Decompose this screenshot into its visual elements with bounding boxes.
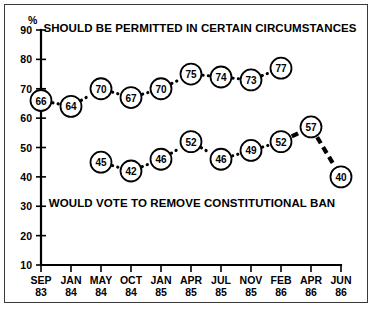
x-tick-label-month: JUL xyxy=(211,274,231,286)
data-point-value: 64 xyxy=(65,101,77,112)
x-tick-label-month: SEP xyxy=(30,274,51,286)
series-connector xyxy=(203,75,209,76)
series-connector xyxy=(143,92,150,94)
x-tick-label-month: JAN xyxy=(60,274,81,286)
y-tick-label: 20 xyxy=(20,230,32,242)
series-data-points: 666470677075747377454246524649525740 xyxy=(31,58,352,188)
x-tick-label-month: NOV xyxy=(240,274,263,286)
series-connector xyxy=(201,148,210,153)
x-tick-label-year: 85 xyxy=(245,286,257,298)
data-point-value: 46 xyxy=(155,154,167,165)
x-tick-label-year: 85 xyxy=(215,286,227,298)
series-connector xyxy=(53,103,59,104)
y-tick-label: 70 xyxy=(20,83,32,95)
x-tick-label-year: 84 xyxy=(95,286,107,298)
data-point-value: 75 xyxy=(185,69,197,80)
data-point-value: 67 xyxy=(125,93,137,104)
y-tick-label: 60 xyxy=(20,112,32,124)
data-point-value: 73 xyxy=(245,75,257,86)
y-axis-unit-label: % xyxy=(28,14,38,26)
series-connector xyxy=(172,79,180,83)
y-axis-ticks: 908070605040302010 xyxy=(20,24,46,271)
data-point-value: 46 xyxy=(215,154,227,165)
x-tick-label-month: APR xyxy=(300,274,323,286)
x-tick-label-year: 86 xyxy=(305,286,317,298)
y-tick-label: 80 xyxy=(20,53,32,65)
chart-figure: 908070605040302010 SEP83JAN84MAY84OCT84J… xyxy=(0,0,374,309)
data-point-value: 52 xyxy=(185,137,197,148)
series-connector xyxy=(81,95,90,100)
y-tick-label: 30 xyxy=(20,200,32,212)
series-name-label: SHOULD BE PERMITTED IN CERTAIN CIRCUMSTA… xyxy=(43,22,356,34)
data-point-value: 77 xyxy=(275,63,287,74)
data-point-value: 57 xyxy=(305,122,317,133)
data-point-value: 52 xyxy=(275,137,287,148)
x-tick-label-month: APR xyxy=(180,274,203,286)
x-tick-label-month: OCT xyxy=(120,274,143,286)
series-connector xyxy=(262,73,270,76)
data-point-value: 74 xyxy=(215,72,227,83)
series-annotations: SHOULD BE PERMITTED IN CERTAIN CIRCUMSTA… xyxy=(43,22,356,209)
series-connector xyxy=(171,148,180,153)
x-tick-label-year: 86 xyxy=(335,286,347,298)
x-tick-label-year: 86 xyxy=(275,286,287,298)
y-tick-label: 40 xyxy=(20,171,32,183)
series-connector xyxy=(233,78,239,79)
series-connector xyxy=(233,154,240,156)
data-point-value: 70 xyxy=(95,84,107,95)
x-tick-label-month: MAY xyxy=(90,274,112,286)
x-tick-label-year: 85 xyxy=(155,286,167,298)
poll-trend-chart: 908070605040302010 SEP83JAN84MAY84OCT84J… xyxy=(0,0,374,309)
y-tick-label: 10 xyxy=(20,259,32,271)
data-point-value: 49 xyxy=(245,145,257,156)
x-tick-label-year: 84 xyxy=(125,286,137,298)
data-point-value: 70 xyxy=(155,84,167,95)
series-connector xyxy=(113,92,120,94)
series-connector xyxy=(113,166,120,168)
series-connector xyxy=(292,132,300,136)
x-tick-label-month: JAN xyxy=(150,274,171,286)
data-point-value: 42 xyxy=(125,166,137,177)
x-tick-label-year: 84 xyxy=(65,286,77,298)
x-tick-label-month: FEB xyxy=(271,274,292,286)
x-tick-label-year: 85 xyxy=(185,286,197,298)
series-connector xyxy=(142,164,150,167)
y-tick-label: 50 xyxy=(20,142,32,154)
series-connector xyxy=(263,145,270,147)
x-tick-label-month: JUN xyxy=(330,274,351,286)
series-connector xyxy=(317,137,335,166)
series-name-label: WOULD VOTE TO REMOVE CONSTITUTIONAL BAN xyxy=(49,197,336,209)
x-axis-ticks: SEP83JAN84MAY84OCT84JAN85APR85JUL85NOV85… xyxy=(30,265,351,298)
data-point-value: 66 xyxy=(35,96,47,107)
data-point-value: 40 xyxy=(335,172,347,183)
data-point-value: 45 xyxy=(95,157,107,168)
x-tick-label-year: 83 xyxy=(35,286,47,298)
